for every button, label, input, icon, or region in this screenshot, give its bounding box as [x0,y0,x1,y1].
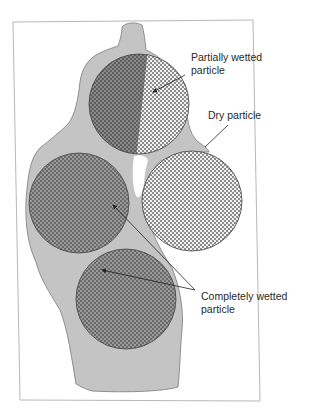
label-completely-wetted-line1: Completely wetted [201,290,287,303]
label-completely-wetted: Completely wetted particle [201,290,287,316]
label-dry-line1: Dry particle [208,109,261,122]
label-partially-wetted: Partially wetted particle [191,51,262,77]
completely-wetted-particle-bottom [76,249,176,349]
dry-leader-line [205,125,228,147]
dry-particle [142,151,242,251]
completely-wetted-particle-left [29,153,129,253]
label-partially-wetted-line2: particle [191,64,262,77]
label-dry-particle: Dry particle [208,109,261,122]
label-completely-wetted-line2: particle [201,303,287,316]
label-partially-wetted-line1: Partially wetted [191,51,262,64]
